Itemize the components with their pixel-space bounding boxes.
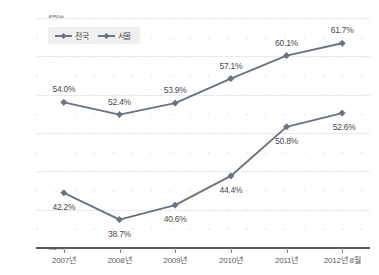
data-point-marker [172,100,178,106]
data-point-marker [61,99,67,105]
data-point-marker [61,190,67,196]
data-point-marker [228,75,234,81]
x-axis-tick-label: 2011년 [275,254,298,265]
data-point-label: 52.6% [333,122,356,132]
data-point-marker [339,40,345,46]
data-point-label: 42.2% [52,202,75,212]
x-axis-tick-label: 2012년 8월 [324,254,361,265]
data-point-label: 52.4% [108,97,131,107]
x-axis-tick-mark [175,248,176,253]
data-point-marker [283,52,289,58]
legend-marker-icon [98,32,115,40]
x-axis-tick-label: 2008년 [108,254,132,265]
data-point-label: 53.9% [164,85,187,95]
data-point-label: 60.1% [275,38,298,48]
data-point-marker [116,217,122,223]
x-axis-tick-label: 2009년 [163,254,187,265]
x-axis-tick-mark [64,248,65,253]
legend-label: 서울 [118,30,132,41]
data-point-label: 38.7% [108,229,131,239]
data-point-label: 61.7% [331,25,354,35]
legend-label: 전국 [75,30,89,41]
series-lines [36,18,370,248]
data-point-label: 40.6% [164,214,187,224]
legend-marker-icon [55,32,72,40]
chart-legend: 전국서울 [48,27,140,44]
data-point-label: 50.8% [275,136,298,146]
data-point-label: 54.0% [52,84,75,94]
x-axis-tick-label: 2010년 [219,254,243,265]
plot-area: 54.0%52.4%53.9%57.1%60.1%61.7%42.2%38.7%… [36,18,370,248]
legend-item-1[interactable]: 전국 [55,30,89,41]
legend-item-2[interactable]: 서울 [98,30,132,41]
series-2 [61,110,346,223]
data-point-marker [339,110,345,116]
x-axis-tick-mark [120,248,121,253]
x-axis-tick-mark [287,248,288,253]
line-chart: 65%60%55%50%45%40%35% 54.0%52.4%53.9%57.… [0,0,379,275]
x-axis-tick-mark [342,248,343,253]
x-axis-tick-label: 2007년 [52,254,76,265]
x-axis-tick-mark [231,248,232,253]
data-point-label: 44.4% [219,185,242,195]
series-1 [61,40,346,118]
data-point-label: 57.1% [219,61,242,71]
series-line [64,43,342,114]
data-point-marker [116,112,122,118]
series-line [64,113,342,220]
